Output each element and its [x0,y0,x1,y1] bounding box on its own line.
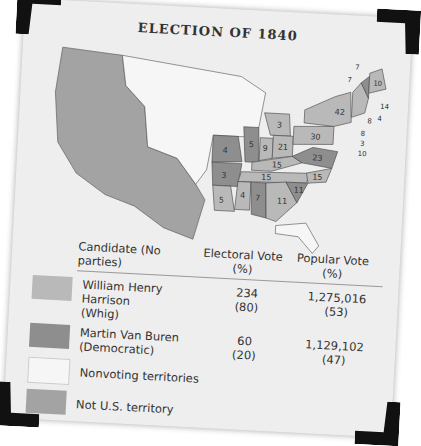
swatch-democratic [29,323,70,349]
svg-text:7: 7 [347,76,352,84]
header-candidate: Candidate (No parties) [77,239,198,273]
svg-text:14: 14 [380,103,390,111]
swatch-nonvoting [27,357,70,385]
svg-text:7: 7 [255,193,261,202]
us-map-svg: 4 3 5 5 9 3 21 15 15 [43,42,393,260]
swatch-whig [32,275,73,301]
svg-text:8: 8 [367,117,372,125]
map-card: ELECTION OF 1840 4 3 5 5 9 3 [3,0,412,438]
svg-text:4: 4 [222,146,228,155]
svg-text:9: 9 [262,144,268,153]
svg-text:10: 10 [357,150,366,158]
svg-text:7: 7 [355,63,360,71]
svg-text:4: 4 [240,191,246,200]
svg-text:8: 8 [360,130,365,138]
svg-text:23: 23 [312,153,323,163]
header-popular: Popular Vote (%) [287,250,378,283]
svg-text:5: 5 [219,196,225,205]
svg-text:15: 15 [272,160,283,170]
svg-text:15: 15 [312,172,323,182]
svg-text:3: 3 [277,120,283,129]
legend: Candidate (No parties) Electoral Vote (%… [26,237,385,431]
election-map: 4 3 5 5 9 3 21 15 15 [43,42,393,260]
svg-text:11: 11 [293,185,304,195]
swatch-not-us [26,389,67,415]
nonvoting-label: Nonvoting territories [79,366,199,386]
not-us-label: Not U.S. territory [76,397,174,416]
svg-text:30: 30 [310,132,321,142]
svg-text:42: 42 [334,107,345,117]
svg-text:15: 15 [261,173,272,183]
svg-text:3: 3 [360,140,365,148]
header-electoral: Electoral Vote (%) [197,246,288,279]
svg-text:11: 11 [277,197,288,207]
svg-text:3: 3 [221,171,227,180]
svg-text:21: 21 [278,143,289,153]
svg-text:10: 10 [373,79,382,87]
svg-text:4: 4 [377,115,382,123]
svg-text:5: 5 [249,140,255,149]
